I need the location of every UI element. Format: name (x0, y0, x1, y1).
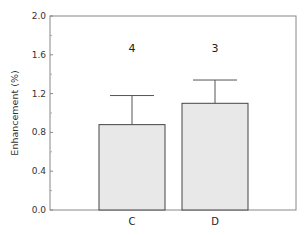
plot-frame (50, 16, 296, 210)
sample-size-label: 4 (129, 42, 136, 55)
sample-size-label: 3 (212, 42, 219, 55)
chart: 0.00.40.81.21.62.0 C4D3 Enhancement (%) (0, 0, 306, 235)
x-tick-label: C (129, 216, 136, 227)
y-tick-label: 1.2 (32, 89, 46, 99)
bar-D (182, 103, 248, 210)
y-axis-label: Enhancement (%) (9, 70, 20, 155)
y-tick-label: 0.0 (32, 205, 47, 215)
y-tick-label: 0.4 (32, 166, 47, 176)
y-tick-label: 2.0 (32, 11, 47, 21)
y-tick-label: 1.6 (32, 50, 47, 60)
bar-C (99, 125, 165, 210)
x-tick-label: D (211, 216, 219, 227)
y-tick-label: 0.8 (32, 127, 47, 137)
